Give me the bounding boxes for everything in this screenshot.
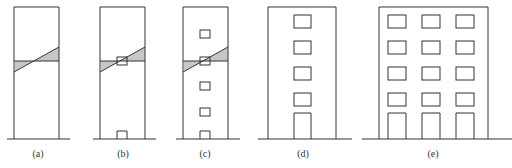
building-elevation-diagram: (a)(b)(c)(d)(e): [0, 0, 512, 168]
window-opening: [388, 67, 406, 80]
door-opening: [422, 113, 440, 139]
panel-label: (e): [427, 148, 438, 160]
door-opening: [456, 113, 474, 139]
window-opening: [294, 67, 311, 80]
panel-d: (d): [258, 7, 352, 160]
panel-label: (b): [117, 148, 129, 160]
panel-label: (d): [297, 148, 309, 160]
window-opening: [294, 15, 311, 28]
building-outline: [14, 7, 59, 139]
window-opening: [200, 30, 210, 38]
window-opening: [456, 67, 474, 80]
building-outline: [379, 7, 488, 139]
window-opening: [388, 41, 406, 54]
window-opening: [294, 93, 311, 106]
window-opening: [200, 82, 210, 90]
door-opening: [200, 131, 210, 139]
building-outline: [100, 7, 145, 139]
building-outline: [183, 7, 228, 139]
door-opening: [294, 113, 311, 139]
panel-e: (e): [362, 7, 512, 160]
window-opening: [388, 93, 406, 106]
window-opening: [422, 41, 440, 54]
building-outline: [268, 7, 336, 139]
window-opening: [422, 67, 440, 80]
panel-a: (a): [7, 7, 70, 160]
window-opening: [456, 15, 474, 28]
window-opening: [388, 15, 406, 28]
window-opening: [456, 41, 474, 54]
panel-c: (c): [176, 7, 240, 160]
window-opening: [294, 41, 311, 54]
panel-label: (a): [32, 148, 43, 160]
window-opening: [456, 93, 474, 106]
window-opening: [422, 15, 440, 28]
panel-b: (b): [93, 7, 156, 160]
panel-label: (c): [199, 148, 210, 160]
door-opening: [388, 113, 406, 139]
window-opening: [200, 108, 210, 116]
door-opening: [117, 131, 127, 139]
window-opening: [422, 93, 440, 106]
